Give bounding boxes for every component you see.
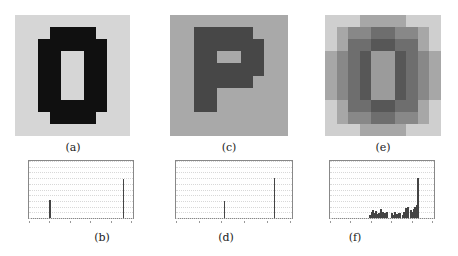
histogram-bar <box>386 212 388 218</box>
histogram-b <box>28 160 134 219</box>
histogram-bar <box>49 200 51 218</box>
image-panel-a <box>15 15 130 136</box>
caption-a: (a) <box>53 141 93 154</box>
digit-zero-binary <box>15 15 130 136</box>
histogram-bar <box>224 201 226 218</box>
histogram-bar <box>274 178 276 218</box>
caption-e: (e) <box>363 141 403 154</box>
image-panel-c <box>170 15 288 136</box>
caption-b: (b) <box>82 231 122 244</box>
histogram-f <box>329 160 435 219</box>
digit-zero-blurred <box>325 15 441 136</box>
histogram-bar <box>123 179 125 218</box>
histogram-d <box>175 160 293 219</box>
letter-p-image <box>170 15 288 136</box>
histogram-bar <box>417 178 419 218</box>
image-panel-e <box>325 15 441 136</box>
caption-f: (f) <box>335 231 375 244</box>
caption-d: (d) <box>206 231 246 244</box>
caption-c: (c) <box>209 141 249 154</box>
